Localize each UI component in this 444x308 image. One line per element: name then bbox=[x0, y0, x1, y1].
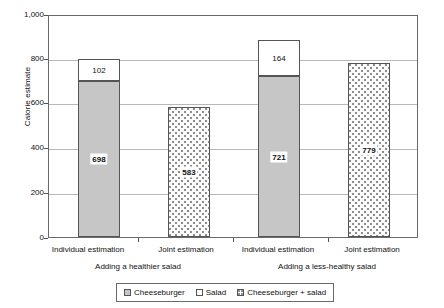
x-group-label-healthier-salad: Adding a healthier salad bbox=[88, 262, 188, 271]
legend-swatch-salad-icon bbox=[196, 289, 203, 296]
x-group-label-less-healthy-salad: Adding a less-healthy salad bbox=[272, 262, 382, 271]
y-tick-label-600: 600 bbox=[10, 99, 44, 107]
bar-individual-estimation-healthier[interactable]: 698 102 bbox=[78, 59, 120, 237]
bar-value-label: 779 bbox=[360, 145, 377, 156]
bar-value-label: 583 bbox=[180, 167, 197, 178]
y-tick-label-800: 800 bbox=[10, 55, 44, 63]
bar-segment-cheeseburger[interactable]: 698 bbox=[78, 81, 120, 237]
x-category-label-4: Joint estimation bbox=[327, 245, 417, 254]
bar-segment-salad[interactable]: 164 bbox=[258, 40, 300, 77]
y-tick-label-1000: 1,000 bbox=[10, 11, 44, 19]
legend-label-cheeseburger: Cheeseburger bbox=[134, 288, 185, 297]
bar-value-label: 164 bbox=[272, 53, 285, 62]
bar-segment-cheeseburger-plus-salad[interactable]: 583 bbox=[168, 107, 210, 237]
bar-segment-cheeseburger-plus-salad[interactable]: 779 bbox=[348, 63, 390, 237]
legend-label-cheeseburger-plus-salad: Cheeseburger + salad bbox=[247, 288, 326, 297]
x-tick-mark-3 bbox=[328, 238, 329, 242]
x-category-label-3: Individual estimation bbox=[233, 245, 323, 254]
legend-item-cheeseburger-plus-salad[interactable]: Cheeseburger + salad bbox=[237, 288, 326, 297]
legend-item-salad[interactable]: Salad bbox=[196, 288, 226, 297]
bar-joint-estimation-healthier[interactable]: 583 bbox=[168, 107, 210, 237]
x-category-label-2: Joint estimation bbox=[141, 245, 231, 254]
legend-item-cheeseburger[interactable]: Cheeseburger bbox=[124, 288, 185, 297]
bar-individual-estimation-less-healthy[interactable]: 721 164 bbox=[258, 40, 300, 237]
y-tick-label-400: 400 bbox=[10, 144, 44, 152]
plot-area: 698 102 583 721 164 779 bbox=[48, 15, 418, 238]
x-tick-mark-2 bbox=[233, 238, 234, 242]
bar-segment-salad[interactable]: 102 bbox=[78, 59, 120, 82]
legend-swatch-cheeseburger-plus-salad-icon bbox=[237, 289, 244, 296]
bar-value-label: 698 bbox=[90, 154, 107, 165]
chart-legend: Cheeseburger Salad Cheeseburger + salad bbox=[116, 283, 334, 302]
bar-segment-cheeseburger[interactable]: 721 bbox=[258, 76, 300, 237]
x-tick-mark-1 bbox=[138, 238, 139, 242]
legend-label-salad: Salad bbox=[206, 288, 226, 297]
y-axis-ticks: 1,000 800 600 400 200 0 bbox=[0, 0, 44, 308]
bar-joint-estimation-less-healthy[interactable]: 779 bbox=[348, 63, 390, 237]
x-category-label-1: Individual estimation bbox=[43, 245, 133, 254]
calorie-estimate-stacked-bar-chart: Calorie estimate 1,000 800 600 400 200 0… bbox=[0, 0, 444, 308]
legend-swatch-cheeseburger-icon bbox=[124, 289, 131, 296]
y-tick-mark-0 bbox=[44, 238, 48, 239]
y-tick-label-200: 200 bbox=[10, 189, 44, 197]
bar-value-label: 102 bbox=[92, 65, 105, 74]
bar-value-label: 721 bbox=[270, 151, 287, 162]
y-tick-label-0: 0 bbox=[10, 234, 44, 242]
